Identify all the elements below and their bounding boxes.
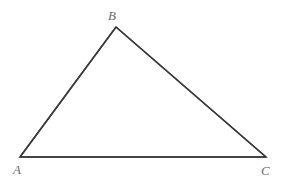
vertex-label-a: A xyxy=(13,163,21,176)
edge-bc xyxy=(116,27,266,157)
triangle-diagram xyxy=(0,0,282,184)
triangle-outline xyxy=(20,27,266,157)
vertex-label-b: B xyxy=(108,9,116,22)
figure-canvas: A B C xyxy=(0,0,282,184)
vertex-label-c: C xyxy=(261,164,270,177)
edge-ab xyxy=(20,27,116,157)
